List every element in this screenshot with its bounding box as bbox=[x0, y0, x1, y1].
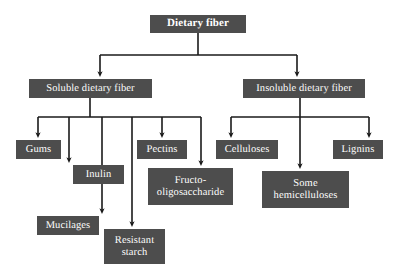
node-inulin: Inulin bbox=[73, 165, 124, 184]
node-some-hemicelluloses: Some hemicelluloses bbox=[262, 171, 349, 208]
node-mucilages: Mucilages bbox=[37, 216, 99, 235]
node-gums: Gums bbox=[16, 140, 61, 159]
node-lignins: Lignins bbox=[333, 140, 383, 159]
dietary-fiber-diagram: Dietary fiber Soluble dietary fiber Inso… bbox=[0, 0, 405, 275]
node-soluble-dietary-fiber: Soluble dietary fiber bbox=[29, 79, 152, 98]
node-insoluble-dietary-fiber: Insoluble dietary fiber bbox=[243, 79, 365, 98]
node-pectins: Pectins bbox=[137, 140, 187, 159]
node-fructo-oligosaccharide: Fructo- oligosaccharide bbox=[148, 168, 233, 205]
node-celluloses: Celluloses bbox=[216, 140, 278, 159]
node-resistant-starch: Resistant starch bbox=[104, 229, 165, 264]
node-dietary-fiber: Dietary fiber bbox=[150, 15, 246, 33]
